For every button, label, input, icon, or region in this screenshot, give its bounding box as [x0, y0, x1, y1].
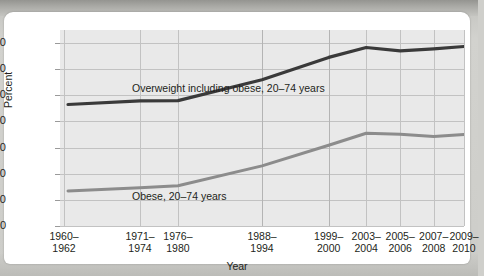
y-axis-tick-label: 20: [0, 168, 6, 179]
x-tick-line1: 2009–: [440, 230, 484, 242]
x-axis-tick-label: 2009–2010: [440, 230, 484, 254]
annotation-overweight-line1: Overweight including obese,: [132, 82, 264, 94]
figure-card: Percent 010203040506070 Overweight inclu…: [4, 12, 470, 264]
annotation-overweight-line2: 20–74 years: [267, 82, 325, 94]
x-axis-tick-label: 1988–1994: [238, 230, 286, 254]
gridline-horizontal: [60, 226, 464, 227]
series-line-obese: [68, 133, 464, 191]
x-tick-line1: 1976–: [154, 230, 202, 242]
gridline-vertical: [464, 30, 465, 226]
x-tick-line1: 1960–: [40, 230, 88, 242]
annotation-obese: Obese, 20–74 years: [132, 190, 227, 202]
x-axis-label: Year: [4, 260, 470, 272]
y-axis-tick-label: 70: [0, 37, 6, 48]
x-axis-tick-label: 1960–1962: [40, 230, 88, 254]
line-chart-figure: Percent 010203040506070 Overweight inclu…: [4, 12, 470, 264]
y-axis-tick-label: 60: [0, 63, 6, 74]
annotation-overweight: Overweight including obese, 20–74 years: [132, 82, 325, 94]
x-tick-line2: 1962: [40, 242, 88, 254]
plot-area: Overweight including obese, 20–74 years …: [60, 30, 464, 226]
y-axis-tick-label: 50: [0, 89, 6, 100]
series-lines: [60, 30, 464, 226]
x-tick-line1: 1988–: [238, 230, 286, 242]
y-axis-tick-label: 30: [0, 142, 6, 153]
x-axis-tick-label: 1976–1980: [154, 230, 202, 254]
y-axis-tick-label: 40: [0, 115, 6, 126]
x-tick-line2: 2010: [440, 242, 484, 254]
y-axis-tick-label: 0: [0, 220, 6, 231]
y-axis-tick-label: 10: [0, 194, 6, 205]
series-line-overweight: [68, 47, 464, 105]
x-tick-line2: 1994: [238, 242, 286, 254]
x-tick-line2: 1980: [154, 242, 202, 254]
